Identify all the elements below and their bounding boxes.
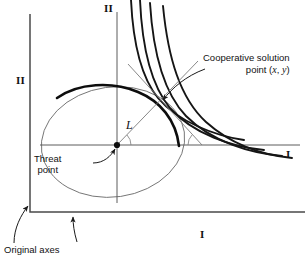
- angle-arc-tangent: [188, 135, 192, 145]
- line-L-label: L: [126, 119, 133, 132]
- inner-axis-label-vertical: II: [104, 2, 113, 14]
- cooperative-solution-line2: point (x, y): [203, 64, 290, 76]
- cooperative-solution-line1: Cooperative solution: [203, 53, 290, 64]
- original-axes-label: Original axes: [4, 245, 59, 256]
- indifference-curve-4: [163, 6, 292, 158]
- cooperative-callout-arrow: [163, 69, 205, 100]
- inner-axis-label-horizontal: I: [286, 148, 290, 160]
- threat-point-label: Threat point: [34, 154, 61, 175]
- angle-arc-origin: [127, 135, 131, 145]
- outer-axis-label-vertical: II: [16, 74, 25, 86]
- outer-axis-label-horizontal: I: [200, 228, 204, 240]
- original-axes-arrow-horizontal: [73, 217, 77, 242]
- threat-point-marker: [114, 142, 120, 148]
- diagram-canvas: [0, 0, 308, 267]
- threat-point-label-line2: point: [34, 165, 61, 176]
- threat-point-callout-arrow: [93, 149, 115, 163]
- cooperative-point-suffix: ): [286, 64, 289, 75]
- cooperative-point-prefix: point (: [246, 64, 272, 75]
- cooperative-solution-label: Cooperative solution point (x, y): [203, 53, 290, 75]
- bargaining-diagram: II I II I L Threat point Cooperative sol…: [0, 0, 308, 267]
- original-axes-arrow-vertical: [14, 206, 28, 243]
- indifference-curves: [131, 0, 292, 158]
